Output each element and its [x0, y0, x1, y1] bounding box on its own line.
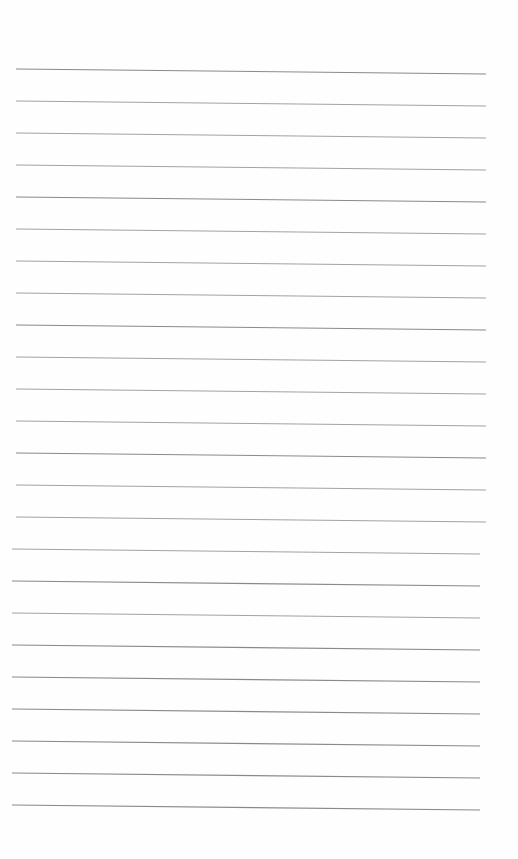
lined-paper-page [0, 0, 518, 859]
ruled-line [16, 229, 486, 234]
ruled-line [12, 677, 480, 682]
ruled-line [12, 645, 480, 650]
ruled-line [12, 709, 480, 714]
ruled-line [16, 261, 486, 266]
ruled-line [16, 325, 486, 330]
ruled-line [16, 485, 486, 490]
ruled-line [16, 517, 486, 522]
ruled-line [16, 133, 486, 138]
ruled-line [12, 581, 480, 586]
ruled-line [16, 421, 486, 426]
ruled-line [12, 805, 480, 810]
ruled-line [16, 101, 486, 106]
ruled-line [16, 197, 486, 202]
ruled-line [12, 741, 480, 746]
ruled-line [16, 69, 486, 74]
ruled-line [16, 453, 486, 458]
ruled-line [16, 357, 486, 362]
ruled-lines [0, 0, 518, 859]
ruled-line [16, 389, 486, 394]
ruled-line [12, 613, 480, 618]
ruled-line [12, 773, 480, 778]
ruled-line [16, 165, 486, 170]
ruled-line [12, 549, 480, 554]
ruled-line [16, 293, 486, 298]
